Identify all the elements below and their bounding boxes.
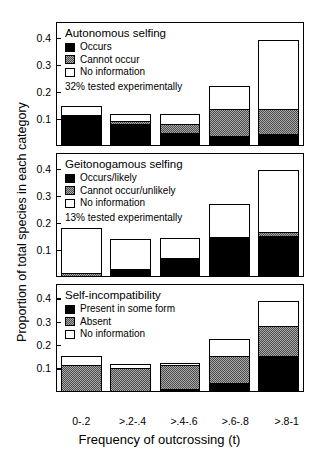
y-axis-tick-label: 0.4 bbox=[27, 292, 51, 304]
bar->.8-1 bbox=[258, 40, 299, 145]
bar-segment-gray bbox=[161, 124, 200, 133]
legend-swatch-gray bbox=[65, 55, 75, 64]
legend-item: Cannot occur bbox=[65, 55, 182, 65]
bar-segment-gray bbox=[210, 109, 249, 136]
y-axis-tick-label: 0.3 bbox=[27, 190, 51, 202]
bar-segment-white bbox=[259, 302, 298, 326]
panel-annotation: 32% tested experimentally bbox=[65, 81, 182, 92]
bar-segment-gray bbox=[111, 368, 150, 391]
legend-label: Present in some form bbox=[80, 304, 175, 314]
bar->.6-.8 bbox=[209, 204, 250, 276]
legend-swatch-black bbox=[65, 174, 75, 183]
legend-swatch-gray bbox=[65, 317, 75, 326]
bar-segment-black bbox=[111, 269, 150, 276]
legend-label: Cannot occur bbox=[80, 55, 139, 65]
legend-geitonogamous-selfing: Geitonogamous selfingOccurs/likelyCannot… bbox=[64, 158, 183, 223]
bar-segment-white bbox=[111, 240, 150, 270]
legend-label: Absent bbox=[80, 317, 111, 327]
legend-self-incompatibility: Self-incompatibilityPresent in some form… bbox=[64, 289, 175, 342]
legend-swatch-gray bbox=[65, 186, 75, 195]
bar->.6-.8 bbox=[209, 86, 250, 145]
x-axis-tick-label: 0-.2 bbox=[60, 415, 103, 427]
legend-label: Cannot occur/unlikely bbox=[80, 186, 176, 196]
panel-title: Self-incompatibility bbox=[65, 289, 175, 301]
bar-segment-black bbox=[259, 356, 298, 391]
bar-segment-black bbox=[259, 134, 298, 145]
bar-segment-gray bbox=[62, 365, 101, 391]
y-axis-tick-label: 0.2 bbox=[27, 339, 51, 351]
bar-segment-white bbox=[161, 115, 200, 124]
panel-geitonogamous-selfing: 0.10.20.30.4Geitonogamous selfingOccurs/… bbox=[56, 153, 304, 277]
bar->.4-.6 bbox=[160, 238, 201, 276]
bar-segment-black bbox=[210, 237, 249, 276]
bar-segment-gray bbox=[161, 365, 200, 389]
bar-segment-white bbox=[62, 107, 101, 116]
legend-swatch-white bbox=[65, 199, 75, 208]
legend-item: No information bbox=[65, 198, 183, 208]
y-axis-tick-label: 0.2 bbox=[27, 86, 51, 98]
bar-segment-white bbox=[210, 340, 249, 356]
legend-label: No information bbox=[80, 198, 145, 208]
y-axis-tick-label: 0.1 bbox=[27, 244, 51, 256]
legend-item: Occurs/likely bbox=[65, 173, 183, 183]
figure: Proportion of total species in each cate… bbox=[0, 0, 319, 461]
legend-swatch-black bbox=[65, 43, 75, 52]
bar-segment-gray bbox=[62, 273, 101, 276]
legend-swatch-black bbox=[65, 305, 75, 314]
bar->.2-.4 bbox=[110, 364, 151, 391]
y-axis-tick-label: 0.1 bbox=[27, 113, 51, 125]
bar-segment-white bbox=[259, 171, 298, 232]
bar-segment-black bbox=[111, 124, 150, 145]
bar-segment-white bbox=[161, 239, 200, 258]
panel-autonomous-selfing: 0.10.20.30.4Autonomous selfingOccursCann… bbox=[56, 22, 304, 146]
bar->.2-.4 bbox=[110, 239, 151, 276]
y-axis-tick-label: 0.1 bbox=[27, 362, 51, 374]
legend-label: No information bbox=[80, 67, 145, 77]
bar-segment-black bbox=[161, 133, 200, 145]
x-axis-tick-labels: 0-.2>.2-.4>.4-.6>.6-.8>.8-1 bbox=[60, 415, 308, 427]
bar-segment-black bbox=[210, 136, 249, 145]
x-axis-tick-label: >.2-.4 bbox=[111, 415, 154, 427]
y-axis-tick-label: 0.2 bbox=[27, 217, 51, 229]
bar->.4-.6 bbox=[160, 363, 201, 391]
bar-segment-gray bbox=[210, 356, 249, 383]
legend-swatch-white bbox=[65, 330, 75, 339]
bar->.6-.8 bbox=[209, 339, 250, 391]
bar-segment-black bbox=[210, 383, 249, 391]
bar-segment-black bbox=[161, 258, 200, 276]
y-axis-tick-label: 0.4 bbox=[27, 32, 51, 44]
legend-swatch-white bbox=[65, 68, 75, 77]
bar-segment-white bbox=[210, 87, 249, 110]
bar-segment-white bbox=[62, 357, 101, 364]
legend-item: No information bbox=[65, 329, 175, 339]
bar-0-.2 bbox=[61, 356, 102, 391]
bar-segment-white bbox=[259, 41, 298, 109]
bar->.4-.6 bbox=[160, 114, 201, 145]
y-axis-tick-label: 0.3 bbox=[27, 59, 51, 71]
bar->.8-1 bbox=[258, 301, 299, 391]
bar-segment-gray bbox=[259, 109, 298, 134]
panel-title: Autonomous selfing bbox=[65, 27, 182, 39]
legend-item: Cannot occur/unlikely bbox=[65, 186, 183, 196]
y-axis-tick-label: 0.4 bbox=[27, 163, 51, 175]
legend-label: Occurs bbox=[80, 42, 112, 52]
bar-segment-gray bbox=[259, 326, 298, 355]
legend-item: Present in some form bbox=[65, 304, 175, 314]
x-axis-tick-label: >.4-.6 bbox=[163, 415, 206, 427]
bar-segment-black bbox=[62, 115, 101, 145]
bar-segment-white bbox=[62, 229, 101, 273]
bar->.8-1 bbox=[258, 170, 299, 276]
y-axis-tick-label: 0.3 bbox=[27, 316, 51, 328]
bar-0-.2 bbox=[61, 228, 102, 276]
legend-item: Absent bbox=[65, 317, 175, 327]
panel-stack: 0.10.20.30.4Autonomous selfingOccursCann… bbox=[56, 22, 304, 399]
legend-label: No information bbox=[80, 329, 145, 339]
panel-title: Geitonogamous selfing bbox=[65, 158, 183, 170]
legend-item: No information bbox=[65, 67, 182, 77]
bar-segment-black bbox=[161, 389, 200, 391]
x-axis-title: Frequency of outcrossing (t) bbox=[0, 432, 319, 447]
bar-0-.2 bbox=[61, 106, 102, 145]
x-axis-tick-label: >.6-.8 bbox=[214, 415, 257, 427]
bar-segment-black bbox=[259, 236, 298, 276]
panel-self-incompatibility: 0.10.20.30.4Self-incompatibilityPresent … bbox=[56, 284, 304, 392]
